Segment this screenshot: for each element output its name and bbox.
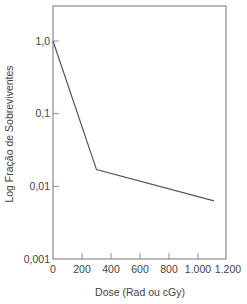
y-axis-title: Log Fração de Sobreviventes: [3, 65, 15, 202]
x-tick-labels: 0 200 400 600 800 1.000 1.200: [50, 263, 241, 275]
survival-curve-line: [53, 41, 214, 201]
survival-curve-chart: 1,0 0,1 0,01 0,001 0 200 400 600 800 1.0…: [0, 0, 247, 304]
x-tick-label: 0: [50, 263, 56, 275]
x-tick-label: 400: [102, 263, 120, 275]
y-tick-labels: 1,0 0,1 0,01 0,001: [24, 35, 50, 265]
x-tick-label: 1.200: [215, 263, 241, 275]
x-tick-label: 1.000: [185, 263, 211, 275]
plot-frame: [53, 6, 226, 259]
y-tick-label: 0,1: [35, 107, 50, 119]
x-axis: [82, 253, 198, 259]
x-tick-label: 600: [131, 263, 149, 275]
x-tick-label: 800: [160, 263, 178, 275]
y-tick-label: 1,0: [35, 35, 50, 47]
y-axis: [53, 41, 59, 186]
y-tick-label: 0,001: [24, 253, 50, 265]
x-axis-title: Dose (Rad ou cGy): [95, 286, 185, 298]
y-tick-label: 0,01: [30, 180, 51, 192]
x-tick-label: 200: [73, 263, 91, 275]
